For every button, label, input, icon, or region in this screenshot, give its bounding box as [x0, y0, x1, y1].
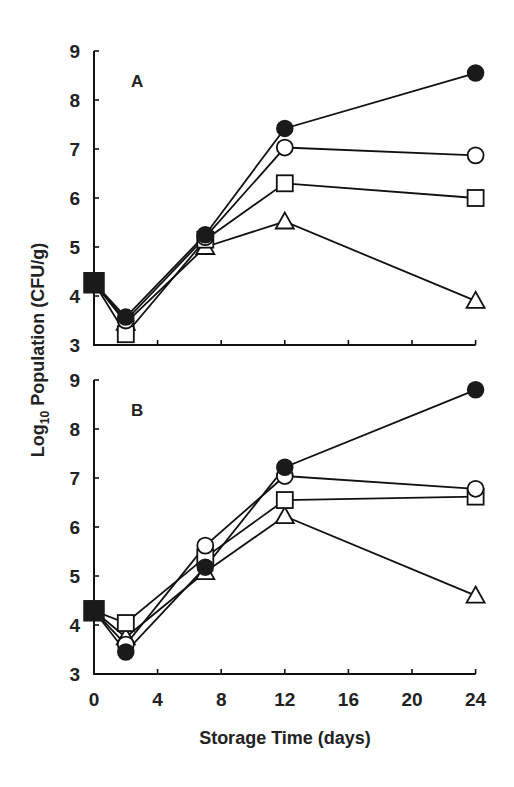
x-tick-label: 16 — [338, 689, 359, 710]
open-triangle-marker — [467, 587, 485, 603]
y-tick-label: 7 — [69, 468, 80, 489]
series-line-open-circle — [94, 148, 476, 321]
panel-a: 3456789A — [69, 41, 484, 356]
series-line-filled-circle — [94, 73, 476, 317]
x-tick-label: 20 — [401, 689, 422, 710]
y-tick-label: 6 — [69, 188, 80, 209]
y-tick-label: 9 — [69, 41, 80, 62]
filled-circle-marker — [277, 120, 293, 136]
y-tick-label: 3 — [69, 664, 80, 685]
x-tick-label: 12 — [274, 689, 295, 710]
open-square-marker — [468, 190, 484, 206]
panel-b: 3456789B — [69, 370, 484, 685]
open-square-marker — [277, 492, 293, 508]
y-tick-label: 5 — [69, 237, 80, 258]
y-tick-label: 8 — [69, 90, 80, 111]
x-axis-title: Storage Time (days) — [199, 728, 371, 748]
filled-circle-marker — [197, 559, 213, 575]
open-circle-marker — [468, 481, 484, 497]
axis-frame — [94, 380, 476, 674]
open-square-marker — [118, 615, 134, 631]
series-line-open-square — [94, 183, 476, 334]
axis-frame — [94, 51, 476, 345]
open-circle-marker — [277, 140, 293, 156]
y-tick-label: 6 — [69, 517, 80, 538]
y-tick-label: 4 — [69, 615, 80, 636]
y-axis-title-log: Log — [28, 424, 48, 457]
filled-circle-marker — [118, 309, 134, 325]
open-triangle-marker — [276, 507, 294, 523]
filled-circle-marker — [468, 65, 484, 81]
x-tick-label: 4 — [152, 689, 163, 710]
y-tick-label: 8 — [69, 419, 80, 440]
filled-square-marker — [84, 273, 104, 293]
series-line-open-triangle — [94, 222, 476, 323]
open-circle-marker — [197, 538, 213, 554]
x-tick-label: 8 — [216, 689, 227, 710]
open-square-marker — [277, 175, 293, 191]
open-triangle-marker — [276, 213, 294, 229]
filled-circle-marker — [277, 459, 293, 475]
open-triangle-marker — [467, 292, 485, 308]
y-axis-title-subscript: 10 — [38, 410, 52, 424]
x-tick-label: 24 — [465, 689, 487, 710]
figure: 3456789A 3456789B 04812162024 Storage Ti… — [0, 0, 514, 787]
x-tick-label: 0 — [89, 689, 100, 710]
y-tick-label: 7 — [69, 139, 80, 160]
filled-circle-marker — [197, 227, 213, 243]
filled-circle-marker — [118, 644, 134, 660]
y-tick-label: 9 — [69, 370, 80, 391]
y-axis-title: Log10 Population (CFU/g) — [28, 243, 52, 457]
x-axis-tick-labels: 04812162024 — [89, 689, 487, 710]
y-tick-label: 4 — [69, 286, 80, 307]
y-axis-title-rest: Population (CFU/g) — [28, 243, 48, 411]
filled-square-marker — [84, 601, 104, 621]
y-tick-label: 3 — [69, 335, 80, 356]
panel-label: A — [131, 72, 143, 91]
open-circle-marker — [468, 147, 484, 163]
series-line-open-triangle — [94, 516, 476, 637]
panel-label: B — [131, 401, 143, 420]
filled-circle-marker — [468, 382, 484, 398]
y-tick-label: 5 — [69, 566, 80, 587]
